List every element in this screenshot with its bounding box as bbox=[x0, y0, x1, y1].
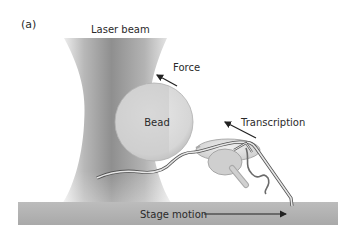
laser-beam-label: Laser beam bbox=[91, 24, 150, 35]
rna-polymerase bbox=[196, 139, 260, 185]
stage-motion-label: Stage motion bbox=[140, 209, 207, 220]
optical-trap-diagram: (a) Laser beam Force Bead Transcription … bbox=[0, 0, 349, 240]
panel-label: (a) bbox=[21, 18, 36, 31]
force-label: Force bbox=[173, 62, 200, 73]
bead-label: Bead bbox=[144, 117, 170, 128]
transcription-label: Transcription bbox=[240, 117, 305, 128]
